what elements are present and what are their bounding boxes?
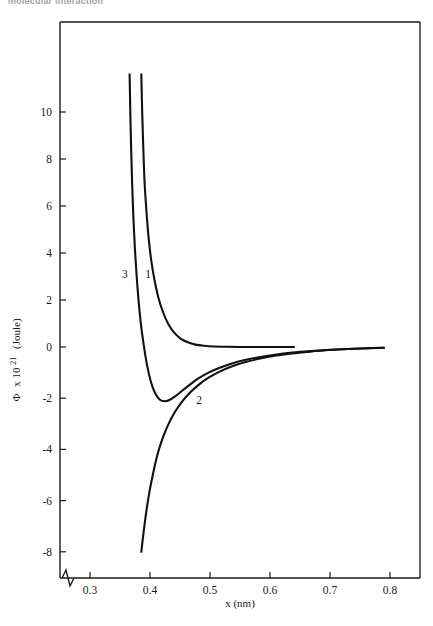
y-tick-label: -8: [42, 546, 52, 558]
y-tick-label: 2: [46, 294, 52, 306]
curve-1: [141, 74, 294, 347]
data-curves: [130, 74, 384, 551]
chart-figure: 1086420-2-4-6-8 0.30.40.50.60.70.8 123 x…: [0, 0, 433, 626]
curve-2: [141, 348, 384, 552]
x-tick-label: 0.7: [323, 584, 338, 596]
x-tick-label: 0.6: [263, 584, 278, 596]
y-tick-label: -2: [42, 392, 52, 404]
y-label-factor: x 10: [10, 367, 22, 387]
curve-label-1: 1: [145, 268, 151, 280]
curve-3: [130, 74, 384, 401]
curve-label-3: 3: [122, 268, 128, 280]
y-tick-label: 8: [46, 153, 52, 165]
y-tick-label: 10: [41, 106, 53, 118]
plot-frame: [60, 22, 420, 586]
y-label-units: (Joule): [10, 318, 23, 349]
y-label-exponent: 21: [9, 357, 18, 365]
y-tick-label: -6: [42, 495, 52, 507]
y-axis-ticks: 1086420-2-4-6-8: [41, 106, 67, 558]
x-axis-label: x (nm): [225, 597, 255, 610]
x-tick-label: 0.3: [83, 584, 98, 596]
y-tick-label: 6: [46, 200, 52, 212]
x-tick-label: 0.4: [143, 584, 158, 596]
y-axis-label-text: Φ x 10 21 (Joule): [6, 318, 23, 401]
y-tick-label: 0: [46, 341, 52, 353]
x-tick-label: 0.8: [383, 584, 398, 596]
y-axis-label: Φ x 10 21 (Joule): [6, 318, 23, 401]
y-tick-label: -4: [42, 443, 52, 455]
curve-label-2: 2: [196, 394, 202, 406]
x-tick-label: 0.5: [203, 584, 218, 596]
potential-energy-plot: 1086420-2-4-6-8 0.30.40.50.60.70.8 123 x…: [0, 0, 433, 626]
y-tick-label: 4: [46, 247, 52, 259]
x-axis-ticks: 0.30.40.50.60.70.8: [83, 572, 398, 596]
y-label-symbol: Φ: [10, 394, 22, 402]
